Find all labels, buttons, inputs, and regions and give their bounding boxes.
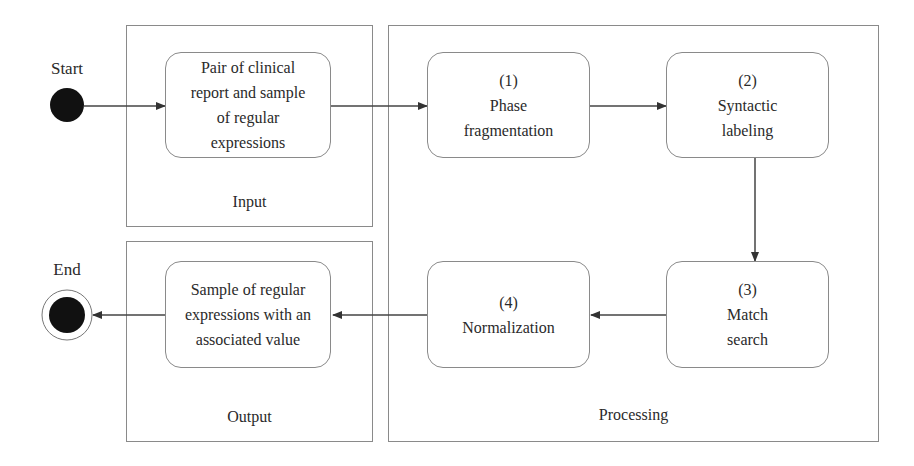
end-node-icon (49, 297, 85, 333)
step2-text: (2) Syntactic labeling (718, 68, 778, 143)
step3-match-search: (3) Match search (666, 261, 829, 368)
step2-syntactic-labeling: (2) Syntactic labeling (666, 52, 829, 158)
step1-text: (1) Phase fragmentation (464, 68, 554, 143)
start-node-icon (50, 88, 84, 122)
step4-text: (4) Normalization (462, 290, 554, 340)
output-node: Sample of regular expressions with an as… (165, 261, 331, 368)
step4-normalization: (4) Normalization (427, 261, 590, 368)
start-label: Start (40, 59, 94, 79)
step3-text: (3) Match search (727, 277, 768, 352)
input-node-text: Pair of clinical report and sample of re… (191, 55, 306, 155)
output-node-text: Sample of regular expressions with an as… (185, 277, 311, 352)
step1-phase-fragmentation: (1) Phase fragmentation (427, 52, 590, 158)
end-label: End (40, 260, 94, 280)
input-node: Pair of clinical report and sample of re… (165, 52, 331, 158)
